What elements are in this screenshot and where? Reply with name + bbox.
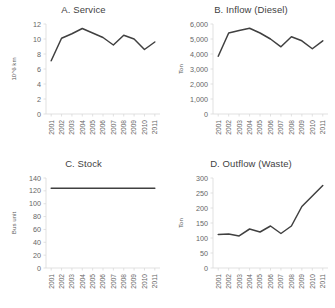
svg-text:2009: 2009 <box>130 120 137 135</box>
svg-text:2007: 2007 <box>277 120 284 135</box>
svg-text:2011: 2011 <box>151 120 158 135</box>
svg-text:5,000: 5,000 <box>190 35 208 44</box>
svg-text:2011: 2011 <box>319 120 326 135</box>
svg-text:2006: 2006 <box>99 274 106 289</box>
svg-text:2007: 2007 <box>110 120 117 135</box>
svg-text:6: 6 <box>37 65 41 74</box>
svg-text:Ton: Ton <box>177 217 184 228</box>
svg-text:2005: 2005 <box>89 274 96 289</box>
panel-a-service: A. Service 02468101210^6 km2001200220032… <box>0 0 167 154</box>
svg-text:2006: 2006 <box>267 274 274 289</box>
panel-b-title: B. Inflow (Diesel) <box>167 4 335 15</box>
svg-text:0: 0 <box>204 110 208 119</box>
svg-text:120: 120 <box>29 186 41 195</box>
svg-text:2010: 2010 <box>141 120 148 135</box>
panel-d-outflow-waste: D. Outflow (Waste) 050100150200250300Ton… <box>167 154 335 308</box>
svg-text:3,000: 3,000 <box>190 65 208 74</box>
panel-b-plot: 01,0002,0003,0004,0005,0006,000Ton200120… <box>167 18 335 154</box>
svg-text:2: 2 <box>37 95 41 104</box>
panel-a-svg: 02468101210^6 km200120022003200420052006… <box>0 18 167 154</box>
svg-text:2008: 2008 <box>120 120 127 135</box>
svg-text:40: 40 <box>33 238 41 247</box>
svg-text:100: 100 <box>29 199 41 208</box>
svg-text:300: 300 <box>196 174 208 183</box>
svg-text:140: 140 <box>29 174 41 183</box>
svg-text:50: 50 <box>200 249 208 258</box>
svg-text:2003: 2003 <box>236 120 243 135</box>
svg-text:2010: 2010 <box>141 274 148 289</box>
svg-text:2004: 2004 <box>246 120 253 135</box>
svg-text:Bus unit: Bus unit <box>10 212 17 235</box>
svg-text:2011: 2011 <box>151 274 158 289</box>
svg-text:2010: 2010 <box>309 274 316 289</box>
svg-text:2002: 2002 <box>58 120 65 135</box>
svg-text:2008: 2008 <box>120 274 127 289</box>
svg-text:2010: 2010 <box>309 120 316 135</box>
panel-d-svg: 050100150200250300Ton2001200220032004200… <box>167 172 335 308</box>
svg-text:2007: 2007 <box>110 274 117 289</box>
svg-text:2006: 2006 <box>99 120 106 135</box>
svg-text:2009: 2009 <box>298 274 305 289</box>
svg-text:4,000: 4,000 <box>190 50 208 59</box>
panel-c-svg: 020406080100120140Bus unit20012002200320… <box>0 172 167 308</box>
svg-text:2004: 2004 <box>79 274 86 289</box>
svg-text:2005: 2005 <box>89 120 96 135</box>
svg-text:8: 8 <box>37 50 41 59</box>
svg-text:2004: 2004 <box>79 120 86 135</box>
svg-text:2009: 2009 <box>130 274 137 289</box>
svg-text:2,000: 2,000 <box>190 80 208 89</box>
panel-d-plot: 050100150200250300Ton2001200220032004200… <box>167 172 335 308</box>
svg-text:20: 20 <box>33 251 41 260</box>
svg-text:1,000: 1,000 <box>190 95 208 104</box>
svg-text:0: 0 <box>204 264 208 273</box>
svg-text:2011: 2011 <box>319 274 326 289</box>
svg-text:2002: 2002 <box>225 274 232 289</box>
svg-text:2007: 2007 <box>277 274 284 289</box>
svg-text:10^6 km: 10^6 km <box>10 57 17 80</box>
svg-text:250: 250 <box>196 189 208 198</box>
svg-text:12: 12 <box>33 20 41 29</box>
panel-d-title: D. Outflow (Waste) <box>167 158 335 169</box>
svg-text:2002: 2002 <box>225 120 232 135</box>
panel-b-svg: 01,0002,0003,0004,0005,0006,000Ton200120… <box>167 18 335 154</box>
panel-a-title: A. Service <box>0 4 167 15</box>
panel-c-title: C. Stock <box>0 158 167 169</box>
svg-text:2001: 2001 <box>215 120 222 135</box>
svg-text:80: 80 <box>33 212 41 221</box>
svg-text:2005: 2005 <box>256 120 263 135</box>
svg-text:2001: 2001 <box>48 274 55 289</box>
panel-c-stock: C. Stock 020406080100120140Bus unit20012… <box>0 154 167 308</box>
svg-text:2006: 2006 <box>267 120 274 135</box>
svg-text:2008: 2008 <box>288 120 295 135</box>
svg-text:2008: 2008 <box>288 274 295 289</box>
svg-text:2001: 2001 <box>215 274 222 289</box>
svg-text:100: 100 <box>196 234 208 243</box>
svg-text:2003: 2003 <box>68 274 75 289</box>
svg-text:2003: 2003 <box>236 274 243 289</box>
svg-text:2001: 2001 <box>48 120 55 135</box>
panel-b-inflow-diesel: B. Inflow (Diesel) 01,0002,0003,0004,000… <box>167 0 335 154</box>
svg-text:2004: 2004 <box>246 274 253 289</box>
svg-text:4: 4 <box>37 80 41 89</box>
svg-text:200: 200 <box>196 204 208 213</box>
svg-text:2002: 2002 <box>58 274 65 289</box>
svg-text:150: 150 <box>196 219 208 228</box>
svg-text:0: 0 <box>37 110 41 119</box>
svg-text:2003: 2003 <box>68 120 75 135</box>
svg-text:2005: 2005 <box>256 274 263 289</box>
svg-text:10: 10 <box>33 35 41 44</box>
svg-text:2009: 2009 <box>298 120 305 135</box>
svg-text:60: 60 <box>33 225 41 234</box>
panel-a-plot: 02468101210^6 km200120022003200420052006… <box>0 18 167 154</box>
figure-panel-grid: A. Service 02468101210^6 km2001200220032… <box>0 0 335 308</box>
panel-c-plot: 020406080100120140Bus unit20012002200320… <box>0 172 167 308</box>
svg-text:0: 0 <box>37 264 41 273</box>
svg-text:6,000: 6,000 <box>190 20 208 29</box>
svg-text:Ton: Ton <box>177 63 184 74</box>
